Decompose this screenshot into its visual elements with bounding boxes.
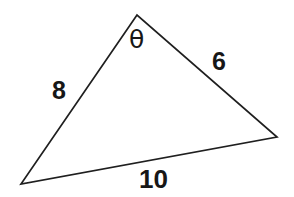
side-length-label-left: 8: [52, 78, 66, 103]
geometry-figure-canvas: 8 6 10 θ: [0, 0, 294, 197]
side-length-label-right: 6: [212, 49, 226, 74]
side-length-label-bottom: 10: [139, 166, 168, 192]
angle-theta-label: θ: [129, 27, 144, 52]
